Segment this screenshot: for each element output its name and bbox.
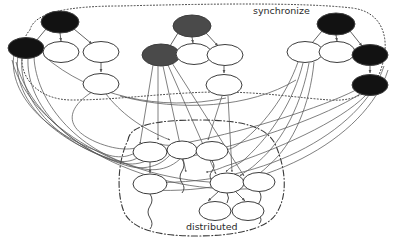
distributed-label: distributed: [186, 221, 238, 232]
node-black[interactable]: [317, 13, 355, 35]
node-white[interactable]: [167, 141, 197, 159]
synchronize-label: synchronize: [253, 5, 310, 16]
graph-figure: synchronize distributed: [0, 0, 394, 245]
node-white[interactable]: [133, 174, 167, 194]
node-black[interactable]: [352, 45, 388, 66]
node-black[interactable]: [41, 11, 79, 33]
node-black[interactable]: [8, 38, 44, 59]
node-white[interactable]: [232, 202, 264, 221]
node-white[interactable]: [210, 173, 244, 193]
node-white[interactable]: [207, 45, 243, 66]
node-white[interactable]: [206, 75, 242, 96]
node-white[interactable]: [199, 202, 231, 221]
node-white[interactable]: [319, 42, 355, 63]
node-gray[interactable]: [142, 44, 180, 66]
node-white[interactable]: [43, 42, 79, 63]
node-white[interactable]: [196, 142, 228, 161]
node-white[interactable]: [83, 74, 119, 95]
node-gray[interactable]: [173, 15, 211, 37]
node-white[interactable]: [287, 42, 323, 63]
node-black[interactable]: [352, 75, 388, 96]
node-white[interactable]: [83, 42, 119, 63]
node-white[interactable]: [133, 142, 167, 162]
node-white[interactable]: [243, 173, 275, 192]
